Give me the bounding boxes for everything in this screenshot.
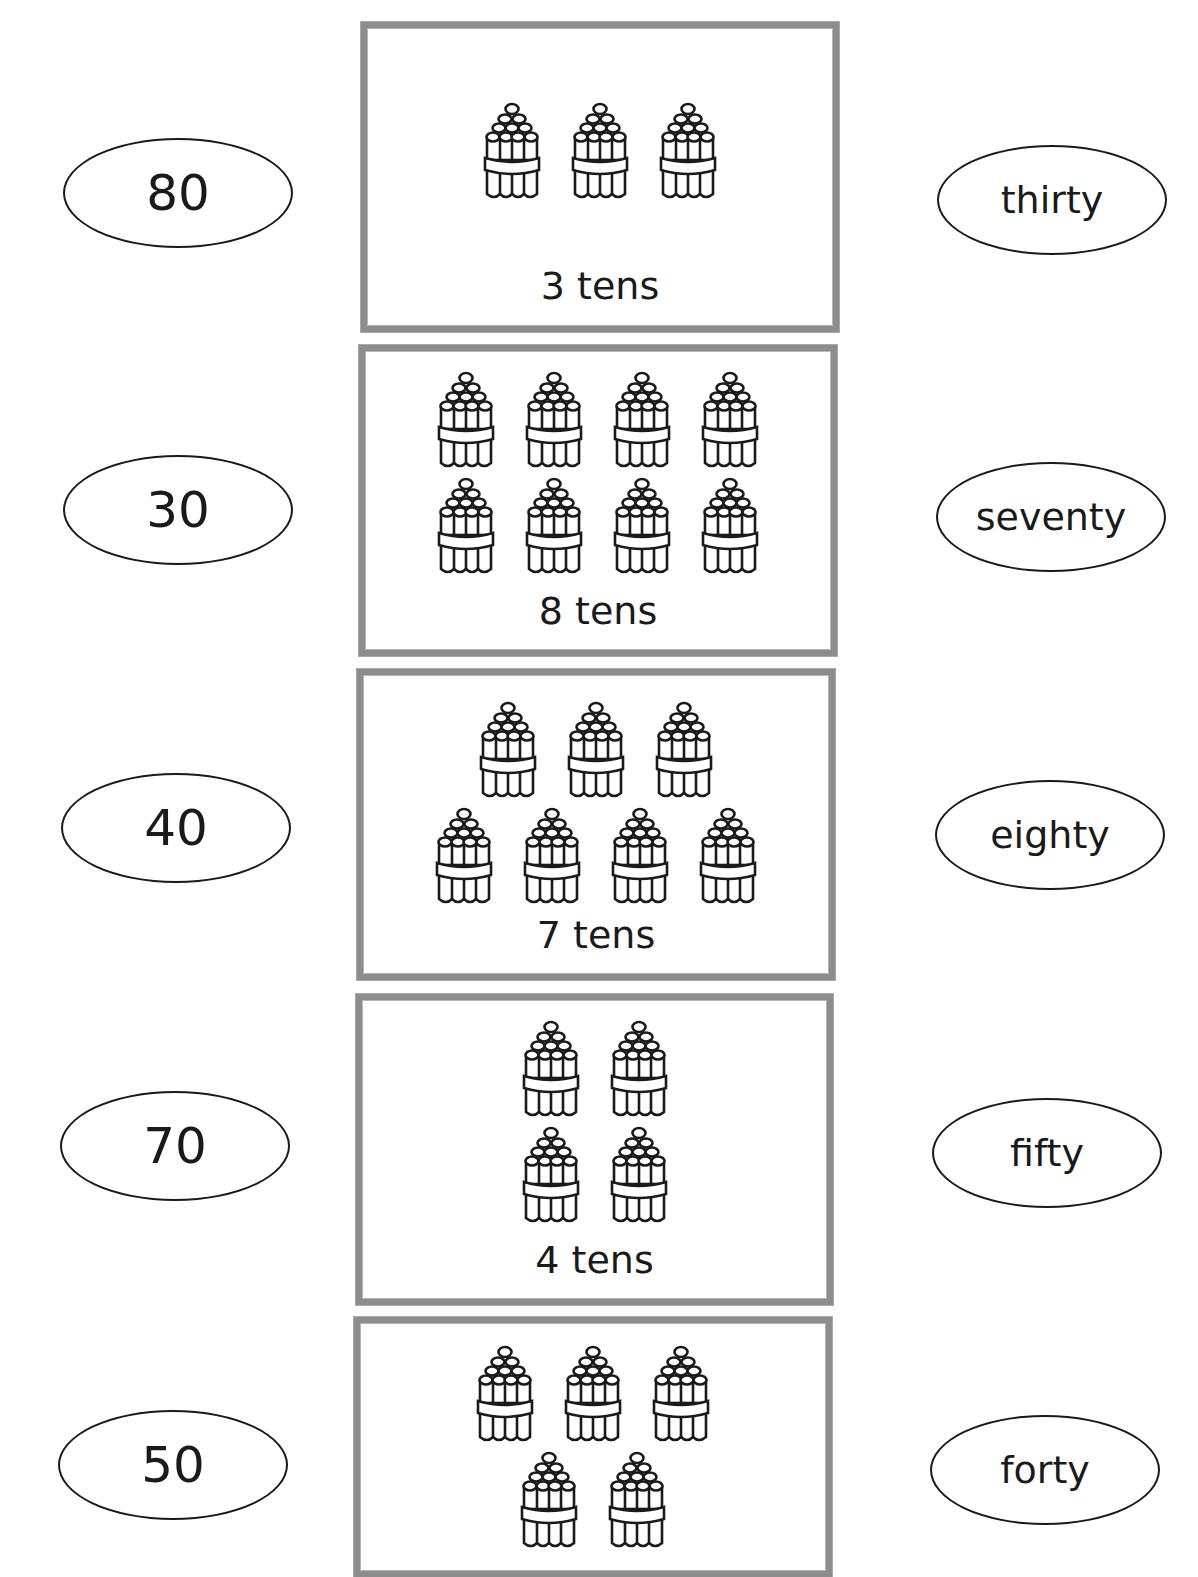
bundle-group [367,100,833,200]
tens-count-label: 8 tens [365,589,831,633]
bundle-of-ten-sticks-icon [521,805,583,905]
bundle-of-ten-sticks-icon [435,475,497,575]
bundle-row [477,699,715,799]
bundle-of-ten-sticks-icon [518,1449,580,1549]
bundle-of-ten-sticks-icon [435,369,497,469]
word-label: fifty [1010,1131,1084,1175]
word-oval-forty[interactable]: forty [930,1415,1160,1525]
number-oval-40[interactable]: 40 [61,773,291,883]
bundle-of-ten-sticks-icon [699,475,761,575]
bundle-of-ten-sticks-icon [433,805,495,905]
number-label: 30 [146,481,210,539]
tens-count-label: 3 tens [367,264,833,308]
bundle-of-ten-sticks-icon [611,369,673,469]
bundle-row [435,369,761,469]
bundle-of-ten-sticks-icon [609,805,671,905]
word-label: eighty [990,813,1110,857]
bundle-of-ten-sticks-icon [562,1343,624,1443]
word-label: seventy [976,495,1127,539]
bundle-row [518,1449,668,1549]
bundle-of-ten-sticks-icon [608,1018,670,1118]
number-label: 70 [143,1117,207,1175]
bundle-of-ten-sticks-icon [520,1018,582,1118]
bundle-of-ten-sticks-icon [657,100,719,200]
tens-picture-box-7[interactable]: 7 tens [357,669,835,980]
word-label: forty [1000,1448,1090,1492]
word-oval-eighty[interactable]: eighty [935,780,1165,890]
number-oval-70[interactable]: 70 [60,1091,290,1201]
bundle-of-ten-sticks-icon [565,699,627,799]
bundle-of-ten-sticks-icon [650,1343,712,1443]
tens-count-label: 4 tens [362,1238,827,1282]
bundle-of-ten-sticks-icon [653,699,715,799]
number-oval-80[interactable]: 80 [63,138,293,248]
word-oval-fifty[interactable]: fifty [932,1098,1162,1208]
bundle-of-ten-sticks-icon [608,1124,670,1224]
bundle-group [362,1018,827,1224]
tens-picture-box-3[interactable]: 3 tens [361,22,839,332]
bundle-of-ten-sticks-icon [523,369,585,469]
number-oval-50[interactable]: 50 [58,1410,288,1520]
bundle-of-ten-sticks-icon [611,475,673,575]
bundle-of-ten-sticks-icon [606,1449,668,1549]
number-oval-30[interactable]: 30 [63,455,293,565]
bundle-row [435,475,761,575]
bundle-of-ten-sticks-icon [697,805,759,905]
bundle-row [520,1124,670,1224]
word-oval-seventy[interactable]: seventy [936,462,1166,572]
bundle-of-ten-sticks-icon [477,699,539,799]
tens-picture-box-8[interactable]: 8 tens [359,345,837,656]
bundle-of-ten-sticks-icon [569,100,631,200]
tens-picture-box-5[interactable] [354,1317,832,1577]
bundle-of-ten-sticks-icon [699,369,761,469]
number-label: 50 [141,1436,205,1494]
word-label: thirty [1001,178,1104,222]
bundle-row [481,100,719,200]
bundle-of-ten-sticks-icon [520,1124,582,1224]
bundle-row [520,1018,670,1118]
bundle-of-ten-sticks-icon [481,100,543,200]
bundle-group [363,699,829,905]
word-oval-thirty[interactable]: thirty [937,145,1167,255]
number-label: 40 [144,799,208,857]
bundle-group [365,369,831,575]
tens-count-label: 7 tens [363,913,829,957]
number-label: 80 [146,164,210,222]
bundle-row [474,1343,712,1443]
bundle-row [433,805,759,905]
bundle-group [360,1343,826,1549]
bundle-of-ten-sticks-icon [474,1343,536,1443]
bundle-of-ten-sticks-icon [523,475,585,575]
tens-picture-box-4[interactable]: 4 tens [356,994,833,1305]
